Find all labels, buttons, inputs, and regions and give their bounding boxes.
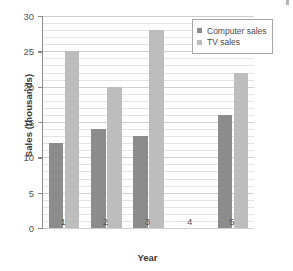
bar — [149, 30, 164, 228]
chart-legend: Computer salesTV sales — [192, 19, 273, 54]
legend-item: Computer sales — [197, 26, 267, 36]
bar-group — [91, 16, 122, 228]
bar — [133, 136, 148, 228]
y-axis-tick-label: 0 — [29, 223, 34, 234]
y-axis-tick-label: 20 — [23, 81, 34, 92]
y-axis-tick-label: 5 — [29, 187, 34, 198]
y-axis-tick-label: 10 — [23, 152, 34, 163]
bar-group — [49, 16, 80, 228]
bar-chart: Sales (thousands) 051015202530 12345 Yea… — [0, 0, 293, 271]
bar — [234, 73, 249, 228]
legend-swatch-icon — [197, 40, 202, 45]
legend-item: TV sales — [197, 37, 267, 47]
y-axis-tick-label: 15 — [23, 117, 34, 128]
legend-item-label: Computer sales — [207, 26, 267, 36]
bar — [91, 129, 106, 228]
x-axis-tick-label: 5 — [229, 216, 234, 227]
y-axis-tick-label: 30 — [23, 11, 34, 22]
x-axis-tick-label: 3 — [145, 216, 150, 227]
bar — [65, 51, 80, 228]
legend-item-label: TV sales — [207, 37, 240, 47]
bar — [218, 115, 233, 228]
bar-group — [133, 16, 164, 228]
bar — [107, 87, 122, 228]
scan-artifact — [286, 0, 289, 5]
x-axis-tick-label: 4 — [187, 216, 192, 227]
legend-swatch-icon — [197, 28, 202, 33]
x-axis-tick-label: 1 — [60, 216, 65, 227]
y-axis-title: Sales (thousands) — [23, 36, 34, 196]
x-axis-title: Year — [40, 252, 255, 263]
x-axis-tick-label: 2 — [103, 216, 108, 227]
gridline-major — [43, 228, 254, 229]
y-axis-tick-label: 25 — [23, 46, 34, 57]
y-axis-tick — [38, 228, 43, 229]
